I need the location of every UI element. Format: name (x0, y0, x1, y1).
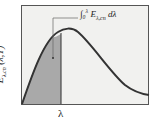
shaded-region (22, 34, 61, 104)
annotation-dot (52, 57, 54, 59)
integral-annotation: ∫₀λ Eλ,cn dλ (80, 8, 116, 21)
x-axis-label: λ (58, 107, 63, 119)
planck-curve-graphic (0, 0, 153, 124)
y-axis-label: Eλ,cn (λ,T) (0, 46, 7, 83)
